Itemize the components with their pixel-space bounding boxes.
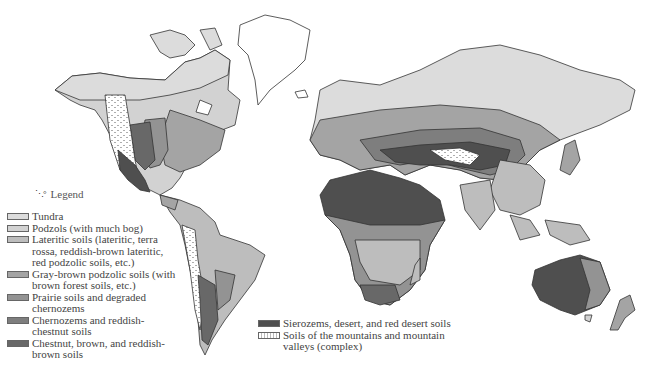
swatch-tundra <box>7 213 29 220</box>
legend-item-mountains: Soils of the mountains and mountain vall… <box>258 330 458 353</box>
swatch-chestnut <box>7 340 29 347</box>
legend-item-lateritic: Lateritic soils (lateritic, terra rossa,… <box>7 234 177 269</box>
legend-item-gray-brown: Gray-brown podzolic soils (with brown fo… <box>7 269 177 292</box>
swatch-lateritic <box>7 236 29 243</box>
legend: Tundra Podzols (with much bog) Lateritic… <box>7 211 177 361</box>
australia <box>532 255 610 315</box>
legend-item-sierozems: Sierozems, desert, and red desert soils <box>258 318 458 330</box>
legend-secondary: Sierozems, desert, and red desert soils … <box>258 318 458 353</box>
legend-item-chestnut: Chestnut, brown, and reddish-brown soils <box>7 338 177 361</box>
legend-title: ⋱° Legend <box>35 188 84 200</box>
legend-item-prairie: Prairie soils and degraded chernozems <box>7 292 177 315</box>
north-america <box>55 28 240 195</box>
swatch-prairie <box>7 294 29 301</box>
legend-item-chernozems: Chernozems and reddish-chestnut soils <box>7 315 177 338</box>
africa <box>320 170 445 305</box>
legend-item-tundra: Tundra <box>7 211 177 223</box>
swatch-mountains <box>258 332 280 339</box>
swatch-sierozems <box>258 320 280 327</box>
swatch-chernozems <box>7 317 29 324</box>
swatch-gray-brown <box>7 271 29 278</box>
island-dots-icon: ⋱° <box>35 189 46 199</box>
swatch-podzols <box>7 225 29 232</box>
